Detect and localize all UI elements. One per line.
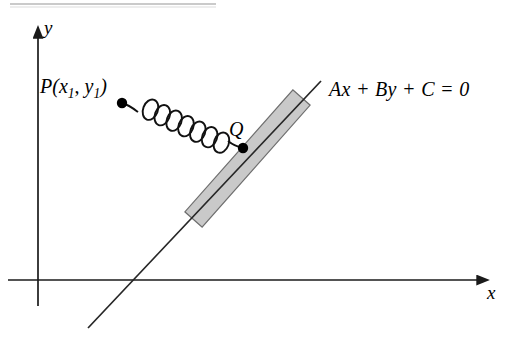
spring-shape [122,97,243,155]
point-q-label: Q [229,119,243,139]
geometry-figure: y x P(x1, y1) Q Ax + By + C = 0 [0,0,510,342]
point-p-label-prefix: P( [40,75,59,97]
point-p-label-comma: , [75,75,85,97]
scan-artifact [10,4,216,7]
line-ax-by-c [88,81,321,328]
figure-canvas [0,0,510,342]
point-p-label-x: x [59,75,68,97]
point-q-dot [238,143,248,153]
x-axis-label: x [487,283,495,302]
point-p-label-suffix: ) [100,75,107,97]
point-p-label: P(x1, y1) [40,76,107,101]
line-equation-label: Ax + By + C = 0 [329,79,470,99]
point-p-dot [117,98,127,108]
y-axis-label: y [44,18,52,37]
point-p-label-x-subscript: 1 [68,86,75,101]
